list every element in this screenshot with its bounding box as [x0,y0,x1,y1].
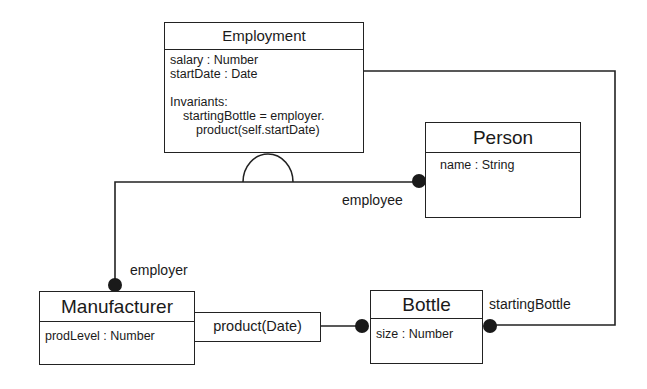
bottle-left-dot [355,319,369,333]
class-manufacturer[interactable]: Manufacturer prodLevel : Number [39,291,195,365]
person-attr-name: name : String [440,158,580,172]
employment-invariant-line2: product(self.startDate) [170,123,363,137]
employment-attr-startdate: startDate : Date [170,67,363,81]
qualifier-product-date-label: product(Date) [213,318,302,334]
association-class-arc [243,154,293,182]
qualifier-product-date[interactable]: product(Date) [194,312,321,342]
class-manufacturer-name: Manufacturer [40,292,194,322]
bottle-attr-size: size : Number [376,327,482,341]
class-person-name: Person [426,123,580,153]
bottle-right-dot [483,319,497,333]
employee-dot [412,174,426,188]
manufacturer-attr-prodlevel: prodLevel : Number [45,329,194,343]
role-startingbottle: startingBottle [489,296,571,312]
class-employment-name: Employment [165,23,363,50]
class-bottle-name: Bottle [371,291,482,319]
class-bottle[interactable]: Bottle size : Number [370,290,483,364]
employment-invariants-title: Invariants: [170,95,363,109]
employment-attr-salary: salary : Number [170,53,363,67]
role-employer: employer [130,262,188,278]
class-employment[interactable]: Employment salary : Number startDate : D… [164,22,364,153]
role-employee: employee [342,192,403,208]
employer-dot [108,278,122,292]
employment-invariant-line1: startingBottle = employer. [170,109,363,123]
class-person[interactable]: Person name : String [425,122,581,218]
